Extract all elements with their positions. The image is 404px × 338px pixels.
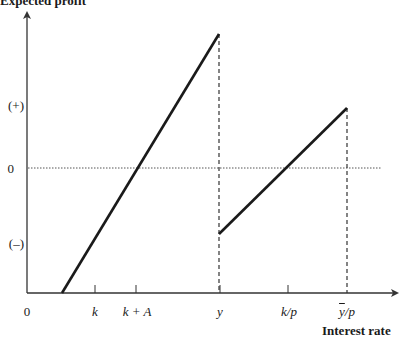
x-axis-title: Interest rate bbox=[322, 324, 391, 337]
y-label-minus: (–) bbox=[2, 237, 24, 250]
x-tick-k-over-p: k/p bbox=[281, 305, 297, 318]
y-label-plus: (+) bbox=[2, 99, 24, 112]
over-p-text: /p bbox=[345, 304, 355, 319]
profit-segment-2 bbox=[219, 108, 347, 234]
diagram-canvas bbox=[0, 0, 404, 338]
y-axis-title: Expected profit bbox=[0, 0, 86, 7]
x-tick-ybar-over-p: y/p bbox=[339, 305, 355, 318]
x-tick-k: k bbox=[92, 305, 98, 318]
x-tick-y: y bbox=[217, 305, 223, 318]
y-label-zero: 0 bbox=[0, 162, 14, 175]
x-tick-origin: 0 bbox=[24, 305, 31, 318]
profit-segment-1 bbox=[62, 34, 219, 293]
x-tick-k-plus-a: k + A bbox=[123, 305, 152, 318]
